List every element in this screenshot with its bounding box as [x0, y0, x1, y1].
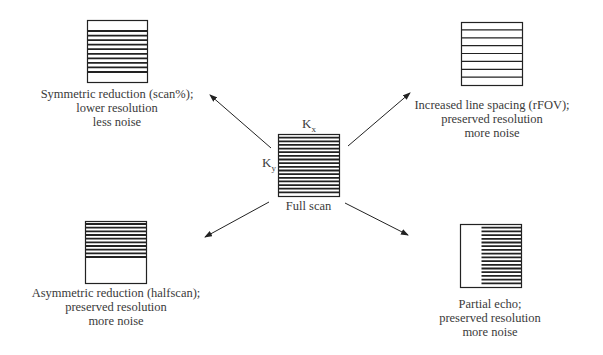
full-scan-label: Full scan [278, 199, 339, 213]
symmetric-kspace-box [88, 21, 148, 83]
ky-letter: K [262, 155, 271, 170]
arrow-partial-echo [345, 203, 408, 235]
ky-subscript: y [271, 163, 276, 173]
full-scan-text: Full scan [278, 199, 339, 213]
halfscan-title: Asymmetric reduction (halfscan); [6, 286, 226, 300]
halfscan-label: Asymmetric reduction (halfscan); preserv… [6, 286, 226, 328]
partial-echo-noise: more noise [390, 325, 590, 339]
ky-axis-label: Ky [262, 155, 276, 173]
halfscan-resolution: preserved resolution [6, 300, 226, 314]
arrow-halfscan [205, 202, 269, 237]
rfov-noise: more noise [392, 126, 592, 140]
kx-letter: K [302, 116, 311, 131]
partial-echo-title: Partial echo; [390, 297, 590, 311]
rfov-title: Increased line spacing (rFOV); [392, 98, 592, 112]
rfov-kspace-box [462, 23, 523, 86]
symmetric-noise: less noise [17, 115, 217, 129]
halfscan-noise: more noise [6, 314, 226, 328]
partial-echo-kspace-box [461, 225, 522, 288]
partial-echo-label: Partial echo; preserved resolution more … [390, 297, 590, 339]
partial-echo-resolution: preserved resolution [390, 311, 590, 325]
symmetric-label: Symmetric reduction (scan%); lower resol… [17, 87, 217, 129]
symmetric-resolution: lower resolution [17, 101, 217, 115]
symmetric-title: Symmetric reduction (scan%); [17, 87, 217, 101]
rfov-resolution: preserved resolution [392, 112, 592, 126]
full-scan-kspace-box [279, 135, 340, 197]
rfov-label: Increased line spacing (rFOV); preserved… [392, 98, 592, 140]
kspace-boxes [86, 21, 523, 288]
halfscan-kspace-box [86, 222, 147, 284]
kx-subscript: x [311, 124, 316, 134]
kx-axis-label: Kx [302, 116, 316, 134]
arrow-symmetric [210, 95, 271, 148]
